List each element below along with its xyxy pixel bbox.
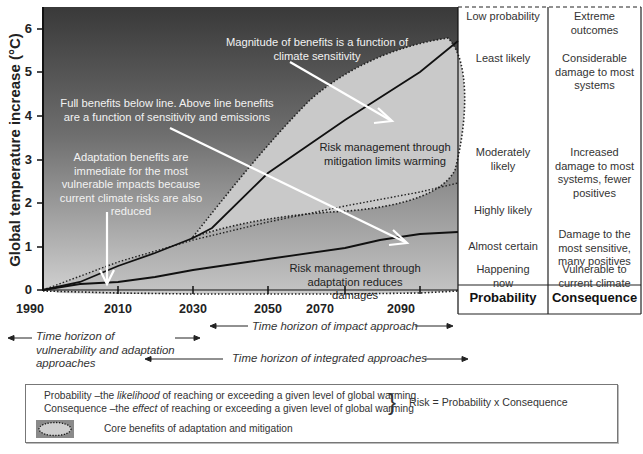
consequence-header: Consequence (548, 290, 641, 305)
probability-low: Low probability (458, 10, 548, 24)
horizon-vulnerability: Time horizon of vulnerability and adapta… (36, 330, 176, 371)
x-tick-2010: 2010 (104, 302, 132, 316)
consequence-increased: Increased damage to most systems, fewer … (548, 146, 641, 200)
consequence-extreme: Extreme outcomes (548, 10, 641, 37)
legend-probability-post: of reaching or exceeding a given level o… (160, 390, 417, 401)
core-benefits-swatch-icon (36, 420, 74, 438)
y-tick-3: 3 (22, 152, 32, 167)
probability-almost-certain: Almost certain (458, 240, 548, 254)
legend-consequence-em: effect (132, 403, 157, 414)
note-mitigation: Risk management through mitigation limit… (315, 141, 455, 168)
probability-column: Low probability Least likely Moderately … (458, 7, 548, 313)
consequence-considerable: Considerable damage to most systems (548, 52, 641, 93)
legend-consequence-pre: –the (107, 403, 133, 414)
x-tick-2030: 2030 (179, 302, 207, 316)
legend-probability-em: likelihood (117, 390, 159, 401)
note-adaptation-immediate: Adaptation benefits are immediate for th… (48, 151, 214, 219)
x-tick-2050: 2050 (254, 302, 282, 316)
probability-moderately-likely: Moderately likely (458, 146, 548, 173)
note-magnitude: Magnitude of benefits is a function of c… (222, 36, 412, 63)
horizon-integrated: Time horizon of integrated approaches (232, 352, 427, 366)
legend: Probability –the likelihood of reaching … (25, 384, 618, 443)
probability-least-likely: Least likely (458, 52, 548, 66)
x-tick-2070: 2070 (306, 302, 334, 316)
x-tick-2090: 2090 (387, 302, 415, 316)
probability-happening-now: Happening now (458, 263, 548, 290)
brace-icon: } (388, 388, 396, 416)
legend-risk-equation: Risk = Probability x Consequence (409, 396, 568, 408)
risk-table: Low probability Least likely Moderately … (458, 7, 641, 313)
note-adaptation: Risk management through adaptation reduc… (285, 262, 425, 303)
y-tick-1: 1 (22, 239, 32, 254)
x-tick-1990: 1990 (16, 302, 44, 316)
legend-probability-definition: Probability –the likelihood of reaching … (44, 390, 416, 401)
legend-probability-pre: –the (92, 390, 118, 401)
note-full-benefits: Full benefits below line. Above line ben… (52, 97, 282, 124)
legend-probability-term: Probability (44, 390, 92, 401)
legend-consequence-post: of reaching or exceeding a given level o… (157, 403, 414, 414)
y-tick-5: 5 (22, 64, 32, 79)
y-tick-4: 4 (22, 108, 32, 123)
y-tick-6: 6 (22, 21, 32, 36)
legend-consequence-term: Consequence (44, 403, 107, 414)
y-tick-2: 2 (22, 195, 32, 210)
horizon-impact: Time horizon of impact approach (252, 320, 418, 334)
consequence-vulnerable: Vulnerable to current climate (548, 263, 641, 290)
legend-consequence-definition: Consequence –the effect of reaching or e… (44, 403, 414, 414)
y-tick-0: 0 (22, 282, 32, 297)
probability-highly-likely: Highly likely (458, 204, 548, 218)
consequence-column: Extreme outcomes Considerable damage to … (548, 7, 641, 313)
probability-header: Probability (458, 290, 548, 305)
legend-core-benefits: Core benefits of adaptation and mitigati… (104, 423, 293, 434)
